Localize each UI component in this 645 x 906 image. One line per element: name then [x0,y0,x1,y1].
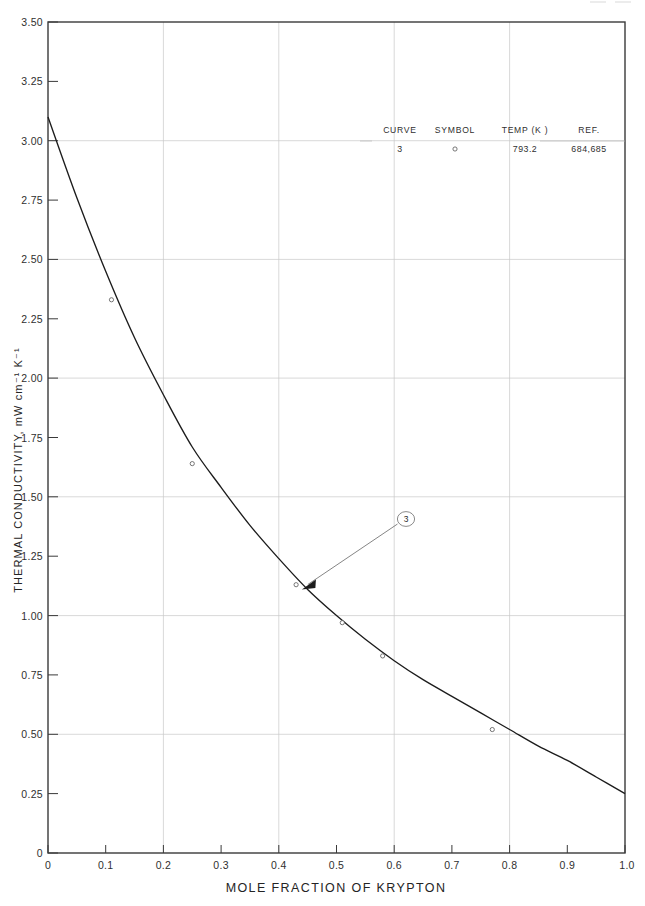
legend-ref-value: 684,685 [571,144,606,154]
x-ticklabel: 1.0 [619,859,635,871]
y-ticklabel: 2.50 [21,253,43,265]
y-ticklabel: 1.50 [21,491,43,503]
data-point-markers [109,298,494,732]
y-ticklabel: 3.00 [21,135,43,147]
y-ticklabel: 0.25 [21,788,43,800]
y-ticklabel: 1.75 [21,432,43,444]
y-ticklabel: 1.00 [21,610,43,622]
data-point [381,654,385,658]
x-ticklabel: 0.4 [271,859,287,871]
x-ticklabel: 0.5 [329,859,345,871]
y-axis-label: THERMAL CONDUCTIVITY, mW cm⁻¹ K⁻¹ [12,347,24,593]
legend-header-curve: CURVE [383,125,417,135]
legend-header-ref: REF. [578,125,600,135]
y-ticklabel: 3.25 [21,75,43,87]
data-point [294,583,298,587]
thermal-conductivity-chart: 3.50 3.25 3.00 2.75 2.50 2.25 2.00 1.75 … [0,0,645,906]
plot-frame [48,22,625,853]
legend-temp-value: 793.2 [513,144,538,154]
y-axis-ticks [48,22,58,853]
y-ticklabel: 2.25 [21,313,43,325]
curve-callout: 3 [302,512,415,590]
x-ticklabel: 0.7 [444,859,460,871]
y-ticklabel: 0.75 [21,669,43,681]
legend-header-symbol: SYMBOL [435,125,475,135]
y-ticklabel: 1.25 [21,550,43,562]
x-axis-ticks [48,845,625,853]
x-ticklabel: 0.6 [386,859,402,871]
y-ticklabel-origin: 0 [37,847,43,859]
y-ticklabel: 3.50 [21,16,43,28]
y-ticklabel: 2.00 [21,372,43,384]
conductivity-curve [48,117,625,794]
data-point [340,621,344,625]
legend-row: 3 793.2 684,685 [397,144,606,154]
data-point [109,298,113,302]
x-ticklabel: 0.3 [213,859,229,871]
y-axis-ticklabels: 3.50 3.25 3.00 2.75 2.50 2.25 2.00 1.75 … [21,16,43,859]
legend-table: CURVE SYMBOL TEMP (K ) REF. 3 793.2 684,… [383,125,607,154]
y-ticklabel: 0.50 [21,728,43,740]
data-point [490,727,494,731]
data-point [190,462,194,466]
legend-header-temp: TEMP (K ) [502,125,549,135]
grid-vertical [163,22,509,853]
x-ticklabel: 0.9 [560,859,576,871]
figure-container: 3.50 3.25 3.00 2.75 2.50 2.25 2.00 1.75 … [0,0,645,906]
legend-curve-value: 3 [397,144,402,154]
callout-label: 3 [404,514,409,524]
x-axis-ticklabels: 0 0.1 0.2 0.3 0.4 0.5 0.6 0.7 0.8 0.9 1.… [45,859,635,871]
x-ticklabel: 0.2 [156,859,172,871]
x-ticklabel: 0.1 [98,859,114,871]
x-axis-label: MOLE FRACTION OF KRYPTON [226,881,447,895]
x-ticklabel: 0.8 [502,859,518,871]
grid-horizontal [48,141,625,735]
legend-symbol-open-circle-icon [453,147,457,151]
y-ticklabel: 2.75 [21,194,43,206]
x-ticklabel: 0 [45,859,51,871]
